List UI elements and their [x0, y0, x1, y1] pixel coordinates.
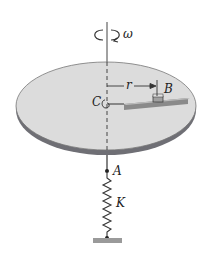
block-b — [153, 94, 163, 102]
ground — [93, 238, 122, 243]
point-a-label: A — [113, 165, 122, 177]
radius-label: r — [126, 79, 132, 91]
point-a — [105, 169, 109, 173]
omega-label: ω — [123, 28, 133, 40]
spring — [103, 173, 111, 237]
disk — [16, 62, 196, 150]
center-label: C — [92, 96, 101, 108]
spring-constant-label: K — [116, 197, 125, 209]
block-label: B — [164, 83, 173, 95]
diagram-canvas — [0, 0, 218, 254]
